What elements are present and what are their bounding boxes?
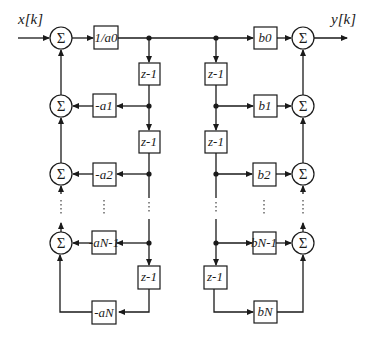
svg-text:bN-1: bN-1 <box>251 235 277 250</box>
sum-node-right-1: Σ <box>292 95 314 117</box>
sum-node-left-N-1: Σ <box>50 232 72 254</box>
svg-text:Σ: Σ <box>57 30 66 46</box>
svg-text:-aN-1: -aN-1 <box>89 235 119 250</box>
svg-text:Σ: Σ <box>299 235 308 251</box>
svg-text:z-1: z-1 <box>207 66 224 81</box>
svg-text:Σ: Σ <box>299 30 308 46</box>
delay-right-3: z-1 <box>204 266 227 289</box>
svg-text:Σ: Σ <box>299 98 308 114</box>
svg-text:z-1: z-1 <box>140 66 157 81</box>
gain-bN-1: bN-1 <box>251 232 277 254</box>
svg-text:bN: bN <box>257 304 274 319</box>
svg-text:-aN: -aN <box>94 305 115 320</box>
svg-text:-a2: -a2 <box>95 167 113 182</box>
svg-text:z-1: z-1 <box>207 134 224 149</box>
sum-node-left-1: Σ <box>50 95 72 117</box>
sum-node-right-N-1: Σ <box>292 232 314 254</box>
gain-minus-aN: -aN <box>92 301 116 324</box>
gain-b1: b1 <box>254 95 277 117</box>
gain-1-over-a0: 1/a0 <box>94 26 118 49</box>
sum-node-input: Σ <box>50 27 72 49</box>
svg-text:Σ: Σ <box>57 98 66 114</box>
gain-minus-aN-1: -aN-1 <box>89 231 119 254</box>
output-label: y[k] <box>329 11 356 27</box>
delay-left-3: z-1 <box>138 266 160 289</box>
svg-text:1/a0: 1/a0 <box>94 30 118 45</box>
svg-text:-a1: -a1 <box>95 98 112 113</box>
delay-left-2: z-1 <box>139 131 160 153</box>
delay-left-1: z-1 <box>139 63 160 85</box>
sum-node-right-2: Σ <box>292 163 314 185</box>
delay-right-2: z-1 <box>205 131 227 153</box>
gain-minus-a2: -a2 <box>93 163 116 186</box>
sum-node-left-2: Σ <box>50 163 72 185</box>
gain-b2: b2 <box>253 163 276 186</box>
svg-text:z-1: z-1 <box>140 134 157 149</box>
svg-text:Σ: Σ <box>57 166 66 182</box>
delay-right-1: z-1 <box>205 63 227 85</box>
svg-text:b1: b1 <box>259 98 272 113</box>
svg-text:Σ: Σ <box>299 166 308 182</box>
svg-text:b2: b2 <box>258 167 272 182</box>
sum-node-output: Σ <box>292 27 314 49</box>
gain-b0: b0 <box>254 27 277 49</box>
svg-text:z-1: z-1 <box>206 269 223 284</box>
input-label: x[k] <box>17 11 43 27</box>
svg-text:Σ: Σ <box>57 235 66 251</box>
gain-minus-a1: -a1 <box>93 94 116 117</box>
svg-text:z-1: z-1 <box>140 269 157 284</box>
filter-block-diagram: x[k] Σ 1/a0 b0 Σ y[k] z-1 z-1 <box>0 0 367 341</box>
gain-bN: bN <box>254 301 277 323</box>
svg-text:b0: b0 <box>259 30 273 45</box>
